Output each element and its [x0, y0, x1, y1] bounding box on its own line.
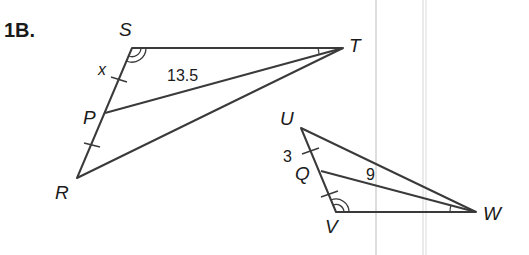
- segment-label-13-5: 13.5: [167, 67, 198, 84]
- triangle-UVW: [301, 128, 476, 212]
- segment-label-3: 3: [283, 148, 292, 165]
- triangle-outline: [77, 48, 343, 178]
- segment-QW: [321, 171, 476, 212]
- vertex-label-S: S: [119, 19, 132, 40]
- vertex-label-P: P: [83, 107, 96, 128]
- vertex-label-Q: Q: [295, 163, 310, 184]
- segment-PT: [105, 48, 343, 113]
- vertex-label-T: T: [349, 35, 362, 56]
- triangle-STR: [77, 48, 343, 178]
- vertex-label-U: U: [280, 108, 294, 129]
- vertex-label-V: V: [325, 216, 340, 237]
- segment-label-9: 9: [366, 166, 375, 183]
- vertex-label-R: R: [55, 182, 69, 203]
- triangle-outline: [301, 128, 476, 212]
- geometry-figure: 1B. S T P R x 13.5 U Q V W 3 9: [0, 0, 529, 255]
- vertex-label-W: W: [483, 203, 503, 224]
- angle-arc-W: [450, 205, 451, 212]
- problem-label: 1B.: [4, 19, 35, 41]
- segment-label-x: x: [97, 61, 107, 78]
